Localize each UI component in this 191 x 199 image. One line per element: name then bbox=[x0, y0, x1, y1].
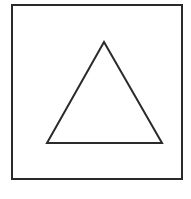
outer-square bbox=[12, 5, 182, 179]
triangle bbox=[47, 42, 162, 143]
diagram-canvas bbox=[0, 0, 191, 199]
